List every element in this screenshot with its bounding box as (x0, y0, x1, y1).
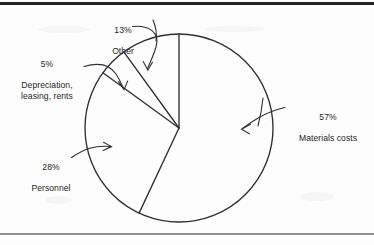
slice-percent-materials: 57% (286, 112, 370, 122)
slice-percent-depreciation: 5% (6, 59, 88, 69)
slice-percent-personnel: 28% (22, 162, 80, 172)
pie-chart-figure: 13% Other 5% Depreciation, leasing, rent… (0, 0, 374, 245)
pie-divider-personnel-depreciation (103, 73, 179, 128)
slice-label-materials: 57% Materials costs (286, 102, 370, 154)
slice-label-other: 13% Other (92, 15, 154, 67)
slice-name-personnel: Personnel (22, 183, 80, 193)
slice-label-personnel: 28% Personnel (22, 152, 80, 204)
slice-percent-other: 13% (92, 25, 154, 35)
slice-name-depreciation: Depreciation, leasing, rents (6, 80, 88, 101)
slice-name-other: Other (92, 46, 154, 56)
slice-label-depreciation: 5% Depreciation, leasing, rents (6, 49, 88, 111)
leader-curl-materials (258, 98, 263, 126)
slice-name-materials: Materials costs (286, 133, 370, 143)
leader-line-depreciation (84, 64, 124, 88)
pie-divider-materials-personnel (139, 128, 179, 213)
